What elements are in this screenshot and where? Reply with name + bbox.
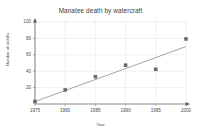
x-tick-label-1995: 1995 — [145, 108, 167, 113]
x-tick-label-1975: 1975 — [24, 108, 46, 113]
chart-figure: Manatee death by watercraft — [0, 0, 201, 135]
y-tick-label-100: 100 — [17, 19, 31, 24]
x-axis-title: Year — [0, 122, 201, 127]
data-point-1985[interactable] — [94, 75, 98, 79]
data-point-1995[interactable] — [154, 68, 158, 72]
x-tick-label-2000: 2000 — [175, 108, 197, 113]
data-point-1975[interactable] — [33, 100, 37, 104]
y-tick-label-40: 40 — [17, 69, 31, 74]
y-tick-label-80: 80 — [17, 36, 31, 41]
y-tick-label-20: 20 — [17, 85, 31, 90]
data-point-1990[interactable] — [124, 63, 128, 67]
gridlines — [35, 20, 186, 104]
x-tick-label-1990: 1990 — [115, 108, 137, 113]
y-tick-label-60: 60 — [17, 52, 31, 57]
x-tick-label-1985: 1985 — [84, 108, 106, 113]
axes — [33, 18, 190, 106]
data-point-2000[interactable] — [184, 37, 188, 41]
data-point-1980[interactable] — [63, 88, 67, 92]
x-tick-label-1980: 1980 — [54, 108, 76, 113]
y-axis-title: Number of deaths — [5, 30, 10, 70]
